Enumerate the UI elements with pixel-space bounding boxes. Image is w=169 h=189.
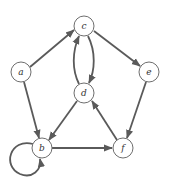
edge-f-d [92,101,117,140]
node-d: d [74,83,94,103]
edge-c-d [88,36,94,83]
node-a: a [11,62,31,82]
node-b: b [32,138,52,158]
edge-e-f [127,82,146,138]
node-label-e: e [146,67,151,77]
edge-a-c [30,30,74,67]
edge-d-c [74,36,79,84]
node-e: e [139,62,159,82]
directed-graph: a b c d e f [0,0,169,189]
edge-a-b [24,82,39,138]
edge-c-e [94,31,140,66]
edge-d-b [49,101,77,140]
node-label-b: b [39,143,45,153]
node-c: c [74,16,94,36]
node-label-d: d [81,88,87,98]
node-f: f [113,138,133,158]
node-label-a: a [18,67,23,77]
node-label-c: c [81,21,86,31]
